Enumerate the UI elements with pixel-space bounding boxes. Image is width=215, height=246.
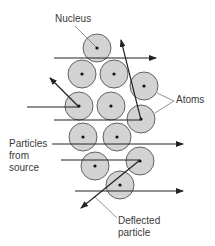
- particles-label-line2: from: [9, 150, 29, 162]
- nucleus-dot: [80, 72, 83, 75]
- atoms-leader: [155, 101, 174, 113]
- atoms-label: Atoms: [176, 94, 204, 106]
- nucleus-dot: [142, 84, 145, 87]
- atoms-leader: [157, 93, 174, 101]
- nucleus-dot: [109, 104, 112, 107]
- particles-label-line1: Particles: [9, 138, 47, 150]
- atoms-group: [65, 34, 158, 199]
- nucleus-dot: [81, 135, 84, 138]
- nucleus-dot: [112, 72, 115, 75]
- nucleus-label: Nucleus: [55, 13, 91, 25]
- deflected-label-line1: Deflected: [118, 215, 160, 227]
- nucleus-dot: [93, 164, 96, 167]
- deflected-leader: [95, 197, 117, 218]
- nucleus-dot: [115, 135, 118, 138]
- particles-label-line3: source: [9, 162, 39, 174]
- nucleus-dot: [118, 183, 121, 186]
- scattering-diagram: [0, 0, 215, 246]
- deflected-label-line2: particle: [118, 227, 150, 239]
